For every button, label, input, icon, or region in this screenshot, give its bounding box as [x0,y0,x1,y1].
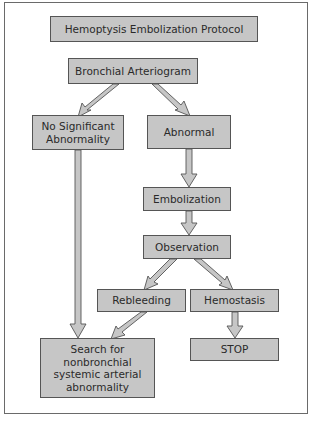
arrow-embolization-to-observation [181,211,197,235]
node-abnormal: Abnormal [147,115,231,149]
arrow-abnormal-to-embolization [181,149,197,187]
arrow-observation-to-rebleeding [144,259,177,290]
diagram-title: Hemoptysis Embolization Protocol [50,16,258,42]
node-bronchial-arteriogram: Bronchial Arteriogram [68,58,198,84]
arrow-hemostasis-to-stop [227,312,243,338]
arrow-no-abnormality-to-search [70,150,86,338]
node-no-significant-abnormality: No Significant Abnormality [32,115,124,150]
arrow-bronchial-to-abnormal [152,84,190,116]
node-stop: STOP [190,338,279,361]
arrow-bronchial-to-no-abnormality [78,84,119,117]
node-rebleeding: Rebleeding [97,289,186,312]
node-hemostasis: Hemostasis [190,289,279,312]
arrow-rebleeding-to-search [111,312,147,339]
node-embolization: Embolization [143,187,231,211]
node-observation: Observation [143,235,231,259]
arrow-observation-to-hemostasis [194,259,233,290]
node-search-nonbronchial: Search for nonbronchial systemic arteria… [40,338,155,398]
